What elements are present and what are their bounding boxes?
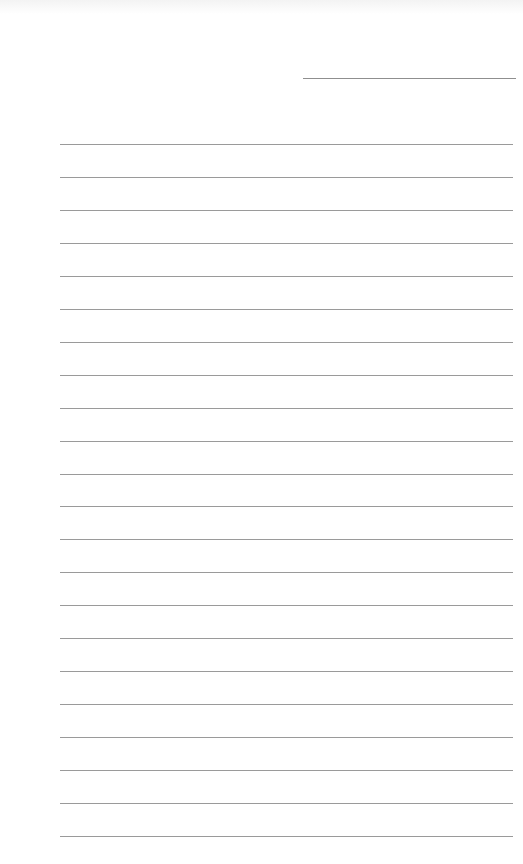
ruled-line [60,177,513,178]
ruled-line [60,539,513,540]
ruled-line [60,506,513,507]
ruled-line [60,276,513,277]
ruled-line [60,836,513,837]
ruled-line [60,572,513,573]
ruled-line [60,605,513,606]
ruled-line [60,474,513,475]
ruled-line [60,803,513,804]
ruled-line [60,770,513,771]
ruled-line [60,309,513,310]
ruled-line [60,441,513,442]
ruled-line [60,375,513,376]
ruled-line [60,210,513,211]
ruled-line [60,638,513,639]
ruled-line [60,704,513,705]
ruled-line [60,671,513,672]
date-line [303,78,516,79]
ruled-line [60,737,513,738]
ruled-line [60,342,513,343]
ruled-line [60,144,513,145]
ruled-line [60,408,513,409]
ruled-line [60,243,513,244]
page-top-edge [0,0,523,14]
